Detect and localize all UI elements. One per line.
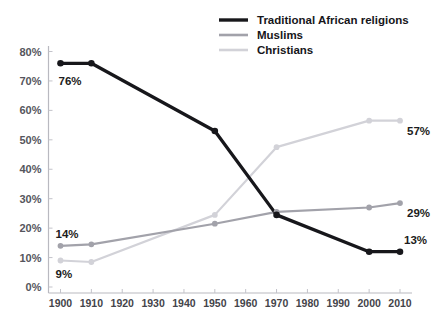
data-point-marker (273, 212, 280, 219)
x-tick-label: 1960 (234, 297, 258, 309)
value-label: 29% (407, 207, 430, 219)
value-label: 9% (56, 268, 73, 280)
data-point-marker (212, 221, 218, 227)
data-point-marker (397, 200, 403, 206)
data-point-marker (366, 248, 373, 255)
chart-container: 0%10%20%30%40%50%60%70%80% 1900191019201… (0, 0, 433, 330)
x-tick-label: 2010 (388, 297, 412, 309)
legend-label: Traditional African religions (257, 14, 409, 26)
x-tick-label: 1920 (111, 297, 135, 309)
value-label: 57% (407, 125, 430, 137)
data-point-marker (366, 205, 372, 211)
data-point-marker (58, 258, 64, 264)
data-point-marker (212, 212, 218, 218)
legend-label: Muslims (257, 29, 303, 41)
data-point-marker (88, 241, 94, 247)
y-tick-label: 80% (19, 46, 41, 58)
x-tick-label: 1930 (141, 297, 165, 309)
x-tick-label: 1910 (80, 297, 104, 309)
x-tick-label: 2000 (357, 297, 381, 309)
y-tick-label: 40% (19, 163, 41, 175)
legend-label: Christians (257, 44, 313, 56)
x-tick-label: 1990 (327, 297, 351, 309)
x-tick-label: 1900 (49, 297, 73, 309)
data-point-marker (212, 128, 219, 135)
plot-background (0, 0, 433, 330)
data-point-marker (366, 118, 372, 124)
data-point-marker (88, 259, 94, 265)
data-point-marker (397, 118, 403, 124)
y-tick-label: 50% (19, 134, 41, 146)
value-label: 13% (404, 234, 427, 246)
data-point-marker (57, 60, 64, 67)
data-point-marker (274, 144, 280, 150)
y-tick-label: 30% (19, 193, 41, 205)
y-tick-label: 20% (19, 222, 41, 234)
x-tick-label: 1940 (172, 297, 196, 309)
x-tick-label: 1980 (296, 297, 320, 309)
y-tick-label: 70% (19, 75, 41, 87)
data-point-marker (88, 60, 95, 67)
y-axis-tick-labels: 0%10%20%30%40%50%60%70%80% (19, 46, 41, 294)
data-point-marker (58, 243, 64, 249)
data-point-marker (397, 248, 404, 255)
value-label: 76% (59, 75, 82, 87)
line-chart: 0%10%20%30%40%50%60%70%80% 1900191019201… (0, 0, 433, 330)
y-tick-label: 10% (19, 252, 41, 264)
y-tick-label: 60% (19, 104, 41, 116)
x-tick-label: 1950 (203, 297, 227, 309)
value-label: 14% (56, 228, 79, 240)
x-tick-label: 1970 (265, 297, 289, 309)
y-tick-label: 0% (26, 281, 42, 293)
